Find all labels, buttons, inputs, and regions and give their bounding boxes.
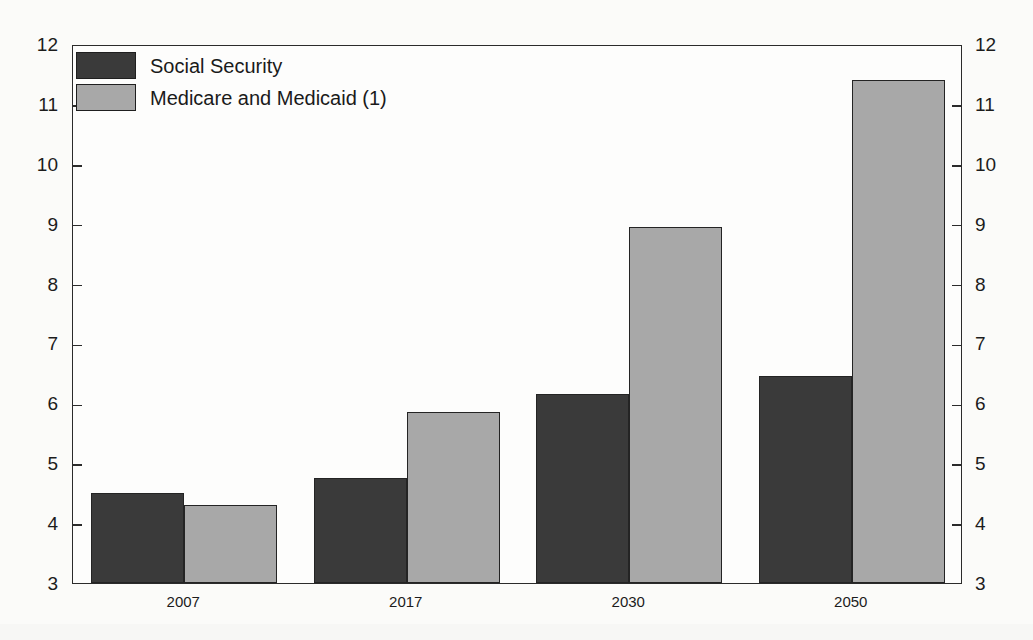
- y-axis-left-tick-9: 9: [47, 215, 58, 234]
- y-axis-left-tick-12: 12: [37, 35, 58, 54]
- plot-area: [72, 45, 962, 584]
- y-axis-left: 3456789101112: [0, 0, 58, 640]
- tick-mark-left-4: [73, 524, 82, 526]
- tick-mark-right-5: [952, 464, 961, 466]
- tick-mark-right-4: [952, 524, 961, 526]
- light-swatch: [76, 84, 136, 111]
- tick-mark-right-6: [952, 405, 961, 407]
- y-axis-right-tick-4: 4: [975, 514, 986, 533]
- legend-entry-1: Medicare and Medicaid (1): [76, 83, 387, 112]
- bar-2050-series-0: [759, 376, 852, 583]
- y-axis-left-tick-6: 6: [47, 394, 58, 413]
- tick-mark-left-10: [73, 165, 82, 167]
- tick-mark-right-11: [952, 105, 961, 107]
- bar-chart-figure: 3456789101112 3456789101112 200720172030…: [0, 0, 1033, 640]
- y-axis-right-tick-5: 5: [975, 454, 986, 473]
- chart-legend: Social SecurityMedicare and Medicaid (1): [76, 49, 387, 112]
- legend-entry-0: Social Security: [76, 51, 387, 80]
- y-axis-left-tick-4: 4: [47, 514, 58, 533]
- scan-edge: [0, 624, 1033, 640]
- y-axis-left-tick-8: 8: [47, 275, 58, 294]
- tick-mark-left-5: [73, 464, 82, 466]
- x-axis-category-labels: 2007201720302050: [72, 593, 962, 623]
- x-axis-label-2017: 2017: [389, 593, 422, 610]
- tick-mark-right-8: [952, 285, 961, 287]
- bar-2030-series-0: [536, 394, 629, 583]
- x-axis-label-2030: 2030: [612, 593, 645, 610]
- y-axis-right-tick-8: 8: [975, 275, 986, 294]
- bar-2050-series-1: [852, 80, 945, 583]
- y-axis-right-tick-6: 6: [975, 394, 986, 413]
- tick-mark-left-7: [73, 345, 82, 347]
- legend-label-0: Social Security: [150, 56, 282, 76]
- y-axis-right-tick-12: 12: [975, 35, 996, 54]
- y-axis-left-tick-3: 3: [47, 574, 58, 593]
- bar-2007-series-0: [91, 493, 184, 583]
- tick-mark-right-7: [952, 345, 961, 347]
- y-axis-right-tick-7: 7: [975, 334, 986, 353]
- bar-2030-series-1: [629, 227, 722, 583]
- tick-mark-left-6: [73, 405, 82, 407]
- tick-mark-left-8: [73, 285, 82, 287]
- tick-mark-left-9: [73, 225, 82, 227]
- tick-mark-right-9: [952, 225, 961, 227]
- y-axis-right-tick-3: 3: [975, 574, 986, 593]
- y-axis-left-tick-10: 10: [37, 155, 58, 174]
- bar-2007-series-1: [184, 505, 277, 583]
- y-axis-right: 3456789101112: [975, 0, 1033, 640]
- y-axis-right-tick-10: 10: [975, 155, 996, 174]
- legend-label-1: Medicare and Medicaid (1): [150, 88, 387, 108]
- x-axis-label-2007: 2007: [167, 593, 200, 610]
- dark-swatch: [76, 52, 136, 79]
- y-axis-left-tick-7: 7: [47, 334, 58, 353]
- y-axis-left-tick-11: 11: [38, 95, 58, 114]
- y-axis-left-tick-5: 5: [47, 454, 58, 473]
- bar-2017-series-1: [407, 412, 500, 583]
- y-axis-right-tick-9: 9: [975, 215, 986, 234]
- y-axis-right-tick-11: 11: [975, 95, 995, 114]
- tick-mark-right-10: [952, 165, 961, 167]
- x-axis-label-2050: 2050: [834, 593, 867, 610]
- bar-2017-series-0: [314, 478, 407, 583]
